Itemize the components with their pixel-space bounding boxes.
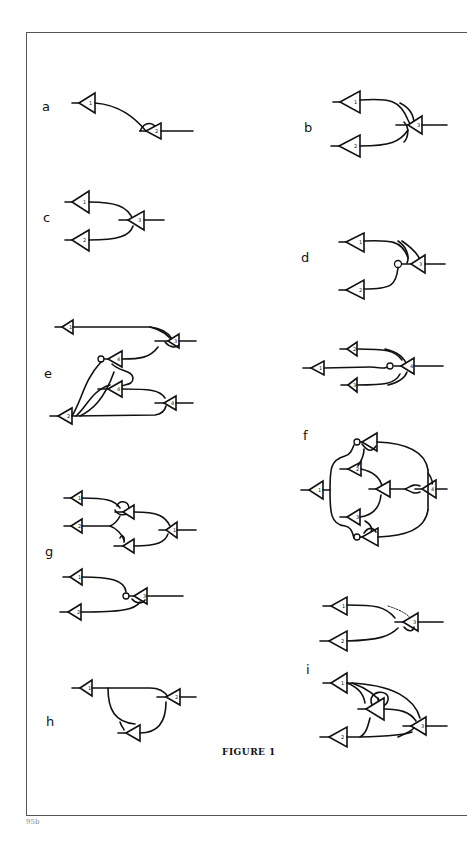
svg-text:2: 2: [341, 734, 344, 740]
svg-text:2: 2: [155, 128, 158, 134]
svg-text:2: 2: [353, 346, 356, 352]
svg-text:1: 1: [359, 239, 362, 245]
svg-text:4: 4: [410, 363, 413, 369]
svg-text:3: 3: [143, 593, 146, 599]
svg-text:2: 2: [354, 143, 357, 149]
svg-text:1: 1: [342, 603, 345, 609]
svg-text:3: 3: [413, 619, 416, 625]
diagram-c: 1 2 3: [65, 191, 164, 251]
diagram-i-top: 1 3 2: [320, 597, 443, 651]
diagram-a: 1 2: [72, 93, 193, 139]
figure-caption: FIGURE 1: [222, 747, 276, 757]
svg-text:1: 1: [341, 680, 344, 686]
svg-text:3: 3: [174, 338, 177, 344]
svg-text:3: 3: [356, 514, 359, 520]
svg-text:2: 2: [359, 287, 362, 293]
svg-text:4: 4: [431, 486, 434, 492]
svg-text:2: 2: [83, 237, 86, 243]
svg-text:2: 2: [175, 694, 178, 700]
svg-text:1: 1: [319, 365, 322, 371]
svg-text:2: 2: [356, 466, 359, 472]
diagram-e2: 2 1 3 4: [303, 342, 443, 392]
page-mark: 95b: [26, 818, 39, 826]
diagram-g-top: 1 2 1: [64, 491, 196, 553]
svg-text:1: 1: [173, 527, 176, 533]
diagram-h: 1 2: [72, 680, 196, 741]
svg-text:1: 1: [78, 574, 81, 580]
svg-text:1: 1: [78, 495, 81, 501]
svg-text:2: 2: [67, 413, 70, 419]
diagram-e: 1 3 4 4 4 2: [50, 320, 196, 424]
svg-text:1: 1: [88, 685, 91, 691]
svg-text:3: 3: [138, 217, 141, 223]
svg-text:3: 3: [421, 723, 424, 729]
diagram-i: 1 3 2: [320, 673, 447, 747]
svg-text:1: 1: [89, 100, 92, 106]
svg-text:4: 4: [117, 356, 120, 362]
svg-text:3: 3: [419, 261, 422, 267]
svg-text:2: 2: [341, 638, 344, 644]
diagram-b: 1 2 3: [331, 91, 447, 157]
svg-text:1: 1: [69, 324, 72, 330]
svg-text:3: 3: [353, 382, 356, 388]
svg-text:1: 1: [354, 99, 357, 105]
svg-text:4: 4: [117, 386, 120, 392]
svg-text:3: 3: [417, 122, 420, 128]
svg-text:1: 1: [318, 487, 321, 493]
diagram-d: 1 2 3: [339, 233, 445, 299]
svg-text:1: 1: [83, 199, 86, 205]
svg-text:2: 2: [77, 609, 80, 615]
svg-text:4: 4: [171, 400, 174, 406]
diagram-f: 2 1 4 3: [301, 433, 447, 546]
diagram-g-bottom: 1 3 2: [60, 569, 183, 620]
svg-text:2: 2: [78, 523, 81, 529]
